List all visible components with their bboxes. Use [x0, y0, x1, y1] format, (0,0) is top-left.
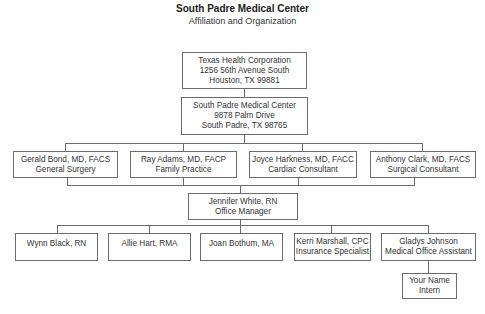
node-name: Texas Health Corporation [198, 56, 290, 66]
node-staff-kerri-marshall: Kerri Marshall, CPC Insurance Specialist [294, 233, 371, 261]
node-medical-center: South Padre Medical Center 9878 Palm Dri… [181, 97, 308, 135]
connector-anthony-bottom [414, 178, 415, 185]
connector-gerald-top [65, 143, 66, 151]
node-staff-gladys-johnson: Gladys Johnson Medical Office Assistant [381, 233, 476, 261]
connector-gladys [428, 225, 429, 233]
connector-staff-bar [57, 225, 429, 226]
connector-joan [240, 225, 241, 233]
node-name: Gladys Johnson [399, 237, 458, 247]
connector-physicians-top-bar [65, 143, 423, 144]
node-name: Wynn Black, RN [27, 239, 87, 249]
node-role: Cardiac Consultant [268, 165, 338, 175]
node-physician-gerald-bond: Gerald Bond, MD, FACS General Surgery [13, 151, 118, 178]
node-physician-anthony-clark: Anthony Clark, MD, FACS Surgical Consult… [370, 151, 476, 178]
node-name: Joan Bothum, MA [209, 239, 274, 249]
node-parent-organization: Texas Health Corporation 1256 56th Avenu… [182, 52, 307, 89]
node-name: Joyce Harkness, MD, FACC [252, 155, 354, 165]
connector-kerri [331, 225, 332, 233]
connector-to-manager [240, 185, 241, 193]
connector-intern [428, 261, 429, 273]
node-role: Intern [419, 286, 440, 296]
connector-anthony-top [422, 143, 423, 151]
node-name: South Padre Medical Center [193, 101, 296, 111]
connector-joyce-top [302, 143, 303, 151]
node-address: 9878 Palm Drive [214, 111, 275, 121]
node-role: Family Practice [156, 165, 212, 175]
connector-wynn [57, 225, 58, 233]
node-name: Gerald Bond, MD, FACS [21, 155, 110, 165]
node-role: Office Manager [215, 207, 271, 217]
node-staff-joan-bothum: Joan Bothum, MA [200, 233, 283, 261]
connector-center-down [244, 135, 245, 143]
connector-allie [149, 225, 150, 233]
chart-title: South Padre Medical Center [0, 3, 485, 14]
node-name: Kerri Marshall, CPC [296, 237, 368, 247]
connector-physicians-bottom-bar [67, 185, 415, 186]
node-office-manager: Jennifer White, RN Office Manager [188, 193, 298, 220]
connector-ray-bottom [183, 178, 184, 185]
node-name: Your Name [409, 276, 450, 286]
chart-subtitle: Affiliation and Organization [0, 16, 485, 26]
node-role: Medical Office Assistant [385, 247, 472, 257]
node-staff-wynn-black: Wynn Black, RN [15, 233, 98, 261]
connector-parent-center [244, 88, 245, 97]
node-intern: Your Name Intern [402, 273, 457, 299]
node-role: General Surgery [35, 165, 95, 175]
node-role: Surgical Consultant [388, 165, 459, 175]
node-city: South Padre, TX 98765 [202, 121, 287, 131]
connector-joyce-bottom [298, 178, 299, 185]
connector-ray-top [183, 143, 184, 151]
connector-gerald-bottom [67, 178, 68, 185]
node-role: Insurance Specialist [296, 247, 369, 257]
node-physician-joyce-harkness: Joyce Harkness, MD, FACC Cardiac Consult… [249, 151, 357, 178]
node-name: Allie Hart, RMA [122, 239, 178, 249]
node-name: Anthony Clark, MD, FACS [376, 155, 471, 165]
node-physician-ray-adams: Ray Adams, MD, FACP Family Practice [130, 151, 237, 178]
node-city: Houston, TX 99881 [209, 76, 279, 86]
node-address: 1256 56th Avenue South [200, 66, 290, 76]
node-name: Jennifer White, RN [209, 197, 278, 207]
node-name: Ray Adams, MD, FACP [141, 155, 226, 165]
node-staff-allie-hart: Allie Hart, RMA [108, 233, 191, 261]
